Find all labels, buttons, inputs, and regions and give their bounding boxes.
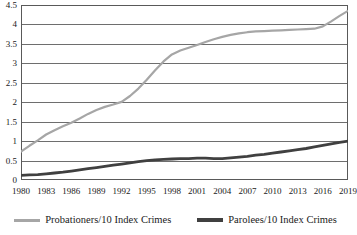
y-tick-label: 4.5 [6, 1, 17, 10]
x-tick-label: 1986 [62, 186, 80, 197]
x-tick-label: 2001 [188, 186, 206, 197]
series-line-parolees [21, 141, 348, 175]
y-tick-label: 3 [13, 59, 18, 68]
y-tick-label: 1 [13, 137, 18, 146]
y-tick-label: 2 [13, 98, 18, 107]
series-line-probationers [21, 11, 348, 152]
x-tick-label: 1980 [12, 186, 30, 197]
y-axis: 4.543.532.521.510.50 [0, 0, 19, 185]
series-layer [21, 5, 348, 180]
x-tick-label: 2010 [264, 186, 282, 197]
x-tick-label: 2019 [339, 186, 357, 197]
x-axis: 1980198319861989199219951998200120042007… [21, 186, 348, 200]
x-tick-label: 2013 [289, 186, 307, 197]
x-tick-label: 1998 [163, 186, 181, 197]
chart-legend: Probationers/10 Index Crimes Parolees/10… [0, 210, 351, 230]
x-tick-label: 1989 [87, 186, 105, 197]
x-tick-label: 1995 [138, 186, 156, 197]
legend-line-swatch-probationers [14, 219, 40, 222]
x-tick-label: 2007 [238, 186, 256, 197]
x-tick-label: 1983 [37, 186, 55, 197]
y-tick-label: 2.5 [6, 79, 17, 88]
legend-line-swatch-parolees [197, 218, 223, 222]
y-tick-label: 3.5 [6, 40, 17, 49]
y-tick-label: 4 [13, 20, 18, 29]
x-tick-label: 2016 [314, 186, 332, 197]
page-edge [0, 229, 351, 235]
legend-label-probationers: Probationers/10 Index Crimes [45, 214, 171, 226]
legend-item-probationers[interactable]: Probationers/10 Index Crimes [14, 214, 171, 226]
y-tick-label: 0.5 [6, 157, 17, 166]
x-tick-label: 1992 [113, 186, 131, 197]
legend-label-parolees: Parolees/10 Index Crimes [228, 214, 336, 226]
y-tick-label: 1.5 [6, 118, 17, 127]
x-tick-label: 2004 [213, 186, 231, 197]
y-tick-label: 0 [13, 176, 18, 185]
legend-item-parolees[interactable]: Parolees/10 Index Crimes [197, 214, 336, 226]
